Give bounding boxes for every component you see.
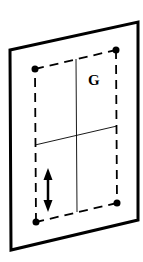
corner-dot-bottom-left (33, 219, 40, 226)
vertical-double-arrow-icon (44, 168, 53, 212)
corner-dot-top-left (32, 66, 39, 73)
perspective-panel-diagram: G (0, 0, 143, 262)
horizontal-centerline (35, 126, 117, 145)
corner-dot-bottom-right (114, 200, 121, 207)
g-label: G (88, 72, 100, 88)
corner-dot-top-right (113, 47, 120, 54)
